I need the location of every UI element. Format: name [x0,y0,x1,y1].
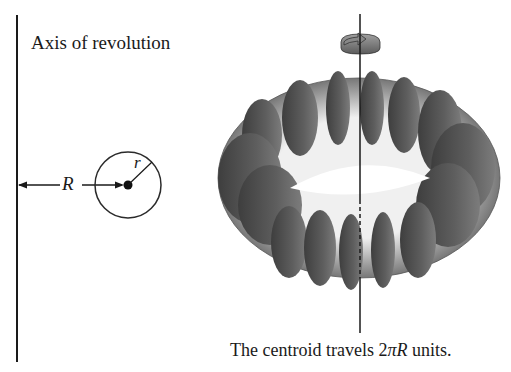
diagram-canvas [0,0,511,372]
caption-suffix: units. [407,340,451,360]
big-radius-label: R [62,173,74,195]
caption-R: R [396,340,407,360]
caption: The centroid travels 2πR units. [230,340,452,361]
rotation-arrow-icon [341,33,380,54]
caption-prefix: The centroid travels 2 [230,340,387,360]
torus [218,71,500,290]
small-radius-label: r [134,153,141,173]
axis-of-revolution-label: Axis of revolution [31,32,170,54]
